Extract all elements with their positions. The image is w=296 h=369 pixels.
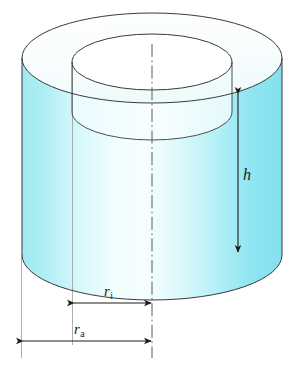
height-symbol: h (243, 166, 251, 183)
cylinder-diagram-canvas (0, 0, 296, 369)
dimension-label-inner-radius: ri (104, 284, 113, 299)
outer-radius-subscript: a (80, 328, 84, 339)
inner-radius-symbol: r (104, 283, 110, 299)
dimension-label-height: h (243, 167, 251, 183)
outer-radius-symbol: r (74, 321, 80, 337)
dimension-label-outer-radius: ra (74, 322, 84, 337)
inner-radius-subscript: i (110, 290, 113, 301)
hollow-cylinder-figure: h ri ra (0, 0, 296, 369)
